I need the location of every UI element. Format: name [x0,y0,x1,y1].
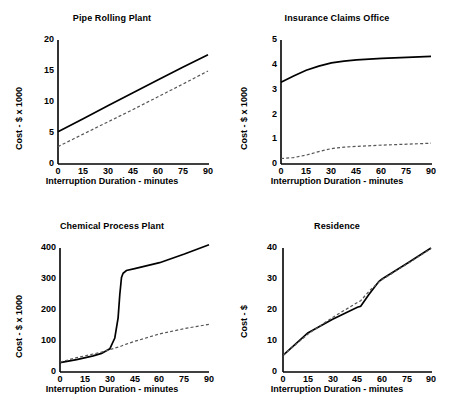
series-solid [60,245,209,363]
series-solid [281,56,431,82]
multi-panel-chart-figure: Pipe Rolling Plant Cost - $ x 1000 Inter… [0,0,449,416]
chart-panel-chemical-process-plant: Chemical Process Plant Cost - $ x 1000 I… [0,208,224,416]
chart-panel-residence: Residence Cost - $ Interruption Duration… [225,208,449,416]
x-tick-label: 30 [100,374,120,384]
y-tick-label: 20 [32,34,54,44]
y-tick-label: 10 [32,96,54,106]
y-tick-label: 40 [253,242,277,252]
x-tick-label: 45 [347,374,367,384]
x-tick-label: 45 [346,166,366,176]
x-tick-label: 0 [50,374,70,384]
chart-panel-pipe-rolling-plant: Pipe Rolling Plant Cost - $ x 1000 Inter… [0,0,224,208]
series-dashed [58,71,208,147]
x-tick-label: 75 [396,166,416,176]
x-tick-label: 30 [323,374,343,384]
x-tick-label: 0 [271,166,291,176]
y-tick-label: 300 [26,273,56,283]
series-dashed [60,324,209,362]
y-tick-label: 20 [253,304,277,314]
x-tick-label: 15 [298,374,318,384]
x-tick-label: 15 [296,166,316,176]
x-tick-label: 60 [149,374,169,384]
x-tick-label: 0 [48,166,68,176]
series-solid [283,248,431,355]
series-dashed [283,249,431,356]
x-tick-label: 75 [174,374,194,384]
y-tick-label: 4 [257,59,277,69]
y-tick-label: 5 [257,34,277,44]
chart-panel-insurance-claims-office: Insurance Claims Office Cost - $ x 1000 … [225,0,449,208]
x-tick-label: 15 [75,374,95,384]
y-tick-label: 400 [26,242,56,252]
x-tick-label: 60 [372,374,392,384]
x-tick-label: 90 [198,166,218,176]
x-tick-label: 60 [371,166,391,176]
x-tick-label: 15 [73,166,93,176]
y-tick-label: 2 [257,109,277,119]
x-tick-label: 30 [321,166,341,176]
x-tick-label: 75 [397,374,417,384]
y-tick-label: 1 [257,133,277,143]
series-dashed [281,143,431,158]
axes-lines [281,40,432,164]
x-tick-label: 75 [173,166,193,176]
y-tick-label: 100 [26,335,56,345]
y-tick-label: 10 [253,335,277,345]
axes-lines [283,248,432,372]
series-solid [58,55,208,132]
x-tick-label: 90 [421,374,441,384]
x-tick-label: 0 [273,374,293,384]
axes-lines [58,40,209,164]
plot-area [225,0,449,208]
y-tick-label: 30 [253,273,277,283]
x-tick-label: 45 [123,166,143,176]
y-tick-label: 200 [26,304,56,314]
y-tick-label: 5 [32,127,54,137]
x-tick-label: 60 [148,166,168,176]
x-tick-label: 45 [125,374,145,384]
x-tick-label: 30 [98,166,118,176]
x-tick-label: 90 [199,374,219,384]
axes-lines [60,248,209,372]
y-tick-label: 15 [32,65,54,75]
x-tick-label: 90 [421,166,441,176]
y-tick-label: 3 [257,84,277,94]
